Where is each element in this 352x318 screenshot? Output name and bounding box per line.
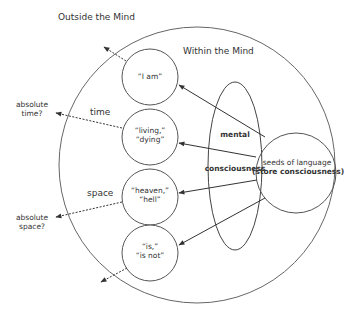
concept-label-heaven-hell: “heaven,” “hell” — [122, 186, 178, 205]
absolute-time-label: absolute time? — [10, 100, 54, 119]
concept-heaven-hell-line1: “heaven,” — [122, 186, 178, 195]
concept-is-is-not-line2: “is not” — [122, 251, 178, 260]
concept-label-is-is-not: “is,” “is not” — [122, 242, 178, 261]
seeds-line1: seeds of language — [252, 158, 342, 167]
concept-label-i-am: “I am” — [122, 72, 178, 81]
concept-heaven-hell-line2: “hell” — [122, 195, 178, 204]
concept-living-dying-line1: “living,” — [122, 126, 178, 135]
absolute-space-label: absolute space? — [10, 213, 54, 232]
absolute-time-line2: time? — [10, 109, 54, 118]
seeds-label: seeds of language (store consciousness) — [252, 158, 342, 177]
concept-living-dying-line2: “dying” — [122, 135, 178, 144]
dashed-arrow-is-out — [101, 268, 127, 282]
concept-is-is-not-line1: “is,” — [122, 242, 178, 251]
mental-label: mental — [208, 130, 262, 139]
absolute-space-line1: absolute — [10, 213, 54, 222]
arrow-seeds-to-is-is-not — [179, 198, 265, 245]
space-label: space — [87, 188, 113, 199]
seeds-line2: (store consciousness) — [252, 167, 342, 176]
within-the-mind-label: Within the Mind — [183, 46, 254, 57]
time-label: time — [90, 107, 110, 118]
concept-label-living-dying: “living,” “dying” — [122, 126, 178, 145]
concept-i-am-line1: “I am” — [122, 72, 178, 81]
absolute-time-line1: absolute — [10, 100, 54, 109]
arrow-seeds-to-living-dying — [179, 143, 256, 157]
arrow-seeds-to-heaven-hell — [179, 180, 257, 193]
absolute-space-line2: space? — [10, 222, 54, 231]
outside-the-mind-label: Outside the Mind — [58, 12, 135, 23]
